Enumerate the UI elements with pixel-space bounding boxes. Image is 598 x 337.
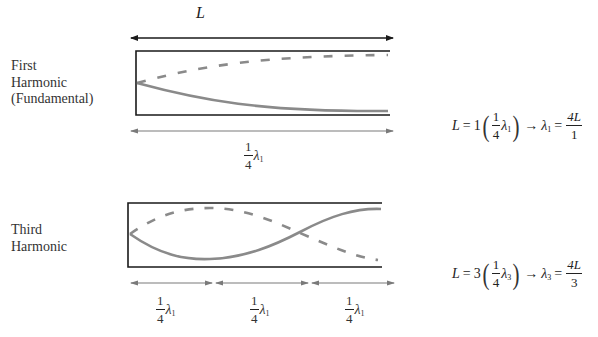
- third-harmonic-equation: L = 3 ( 1 4 λ3 ) → λ3 = 4L 3: [452, 258, 583, 289]
- third-harmonic-span-label-2: 1 4 λ1: [249, 294, 270, 325]
- third-harmonic-span-label-1: 1 4 λ1: [155, 294, 176, 325]
- third-harmonic-wave: [130, 208, 381, 260]
- first-harmonic-wave: [137, 55, 388, 111]
- arrow-icon: →: [524, 118, 538, 134]
- arrow-icon: →: [524, 266, 538, 282]
- first-harmonic-equation: L = 1 ( 1 4 λ1 ) → λ1 = 4L 1: [452, 110, 583, 141]
- fraction: 1 4: [244, 140, 253, 171]
- first-harmonic-span-label: 1 4 λ1: [243, 140, 264, 171]
- third-harmonic-span-label-3: 1 4 λ1: [344, 294, 365, 325]
